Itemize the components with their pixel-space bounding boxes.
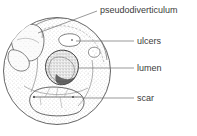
specimen-cross-section bbox=[4, 18, 111, 125]
ulcer-primary-center bbox=[71, 39, 73, 41]
scar-band-node-right bbox=[72, 96, 74, 98]
ulcer-primary bbox=[59, 34, 80, 47]
scar-band-node-left bbox=[33, 96, 35, 98]
label-scar: scar bbox=[137, 93, 154, 103]
label-group: pseudodiverticulum ulcers lumen scar bbox=[100, 5, 178, 103]
ulcer-secondary bbox=[88, 47, 100, 57]
pseudodiverticulum-anatomy-diagram: pseudodiverticulum ulcers lumen scar bbox=[0, 0, 197, 136]
label-ulcers: ulcers bbox=[137, 36, 162, 46]
lumen-region bbox=[46, 50, 79, 85]
label-pseudodiverticulum: pseudodiverticulum bbox=[100, 5, 178, 15]
label-lumen: lumen bbox=[137, 63, 162, 73]
